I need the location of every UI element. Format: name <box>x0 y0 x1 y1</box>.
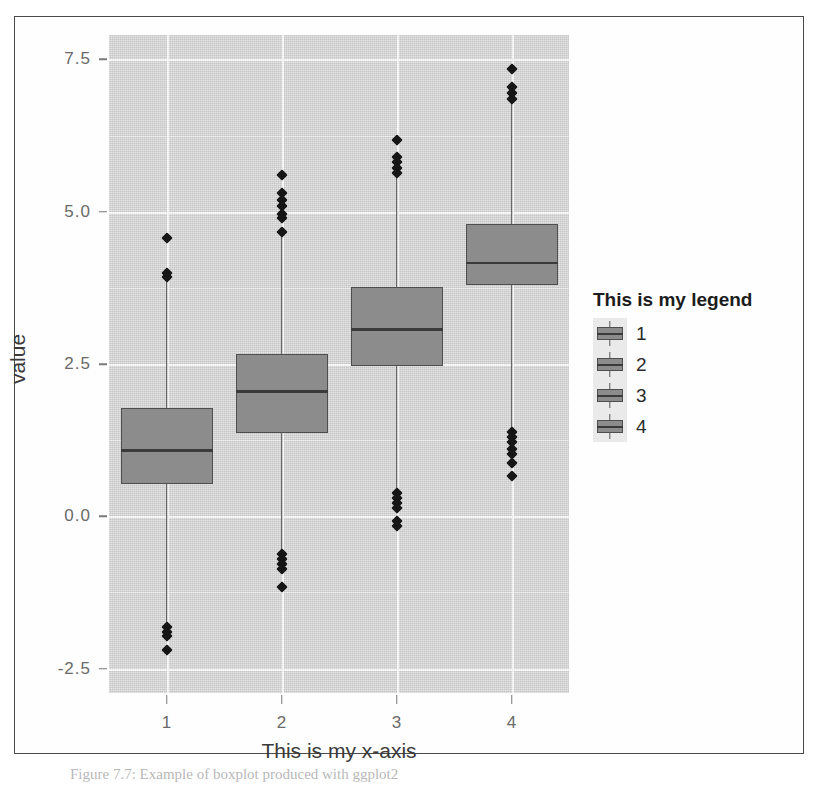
y-tick-mark <box>99 59 107 61</box>
boxplot-box <box>121 408 213 484</box>
x-axis-title: This is my x-axis <box>109 739 569 763</box>
grid-line-major <box>109 212 569 214</box>
y-tick-mark <box>99 668 107 670</box>
x-tick-mark <box>166 695 168 704</box>
grid-line-minor <box>109 592 569 593</box>
x-tick-mark <box>511 695 513 704</box>
grid-line-major <box>109 364 569 366</box>
figure-frame: -2.50.02.55.07.5 1234 value This is my x… <box>14 16 804 754</box>
legend-item-label: 2 <box>636 354 647 376</box>
legend-title: This is my legend <box>593 289 783 311</box>
x-tick-label: 2 <box>277 713 286 733</box>
legend-item-2[interactable]: 2 <box>593 349 783 380</box>
y-tick-mark <box>99 516 107 518</box>
legend-item-1[interactable]: 1 <box>593 318 783 349</box>
boxplot-box <box>236 354 328 433</box>
legend-key-glyph <box>593 411 627 442</box>
y-tick-label: -2.5 <box>35 659 91 679</box>
y-tick-mark <box>99 211 107 213</box>
plot-panel <box>109 35 569 693</box>
boxplot-median-line <box>236 390 328 393</box>
x-tick-label: 4 <box>507 713 516 733</box>
y-tick-label: 5.0 <box>35 202 91 222</box>
figure-caption: Figure 7.7: Example of boxplot produced … <box>70 766 770 796</box>
legend-item-label: 3 <box>636 385 647 407</box>
grid-line-major <box>109 59 569 61</box>
y-tick-label: 7.5 <box>35 49 91 69</box>
legend-key-glyph <box>593 349 627 380</box>
y-tick-label: 0.0 <box>35 506 91 526</box>
boxplot-chart: -2.50.02.55.07.5 1234 value This is my x… <box>15 17 805 755</box>
y-tick-label: 2.5 <box>35 354 91 374</box>
legend-key-median <box>597 333 623 335</box>
boxplot-box <box>351 287 443 366</box>
legend-item-label: 1 <box>636 323 647 345</box>
x-tick-mark <box>281 695 283 704</box>
legend-items: 1234 <box>593 318 783 442</box>
y-axis-title: value <box>6 334 30 384</box>
legend-item-4[interactable]: 4 <box>593 411 783 442</box>
y-tick-mark <box>99 363 107 365</box>
legend-key-glyph <box>593 318 627 349</box>
grid-line-minor <box>109 288 569 289</box>
grid-line-minor <box>109 136 569 137</box>
boxplot-median-line <box>351 328 443 331</box>
legend-item-3[interactable]: 3 <box>593 380 783 411</box>
legend: This is my legend 1234 <box>593 289 783 442</box>
legend-key-glyph <box>593 380 627 411</box>
boxplot-median-line <box>121 449 213 452</box>
x-tick-label: 1 <box>162 713 171 733</box>
grid-line-major <box>109 516 569 518</box>
boxplot-median-line <box>466 262 558 265</box>
legend-key-median <box>597 395 623 397</box>
boxplot-box <box>466 224 558 285</box>
x-tick-label: 3 <box>392 713 401 733</box>
legend-item-label: 4 <box>636 416 647 438</box>
x-tick-mark <box>396 695 398 704</box>
legend-key-median <box>597 426 623 428</box>
grid-line-major <box>109 669 569 671</box>
legend-key-median <box>597 364 623 366</box>
